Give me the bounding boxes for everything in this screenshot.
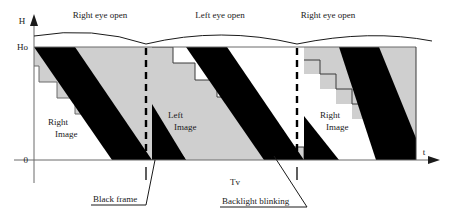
shutter-arc-1 [34, 32, 146, 44]
y-axis-label: H [19, 16, 26, 26]
x-axis-arrowhead [428, 156, 440, 164]
frame2-image-label-line2: Image [174, 122, 197, 132]
y-tick-bottom-label: 0 [24, 155, 29, 165]
callout-black-frame: Black frame [91, 160, 155, 205]
frame1-image-label-line2: Image [55, 129, 78, 139]
shutter-arc-2 [146, 35, 297, 44]
y-tick-top-label: Ho [17, 42, 28, 52]
timing-diagram-figure: Right Image Left Image [0, 0, 449, 218]
callout-backlight-label: Backlight blinking [222, 196, 290, 206]
frame3-image-label-line1: Right [320, 110, 341, 120]
period-label: Tv [230, 177, 240, 187]
timing-diagram-svg: Right Image Left Image [0, 0, 449, 218]
shutter-arc-3 [297, 36, 432, 44]
shutter-label-1: Right eye open [73, 10, 128, 20]
frame2-image-label-line1: Left [168, 110, 183, 120]
y-axis-arrowhead [30, 14, 38, 26]
x-axis-label: t [423, 147, 426, 157]
frame-panel-3: Right Image [304, 47, 416, 160]
frame-panel-2: Left Image [152, 47, 304, 160]
frame-panel-1: Right Image [34, 47, 152, 160]
shutter-label-3: Right eye open [301, 10, 356, 20]
frame1-image-label-line1: Right [48, 117, 69, 127]
callout-black-frame-leader [146, 160, 155, 205]
callout-black-frame-label: Black frame [93, 194, 137, 204]
shutter-label-2: Left eye open [195, 10, 245, 20]
frame3-image-label-line2: Image [326, 122, 349, 132]
shutter-open-arcs [34, 32, 432, 44]
